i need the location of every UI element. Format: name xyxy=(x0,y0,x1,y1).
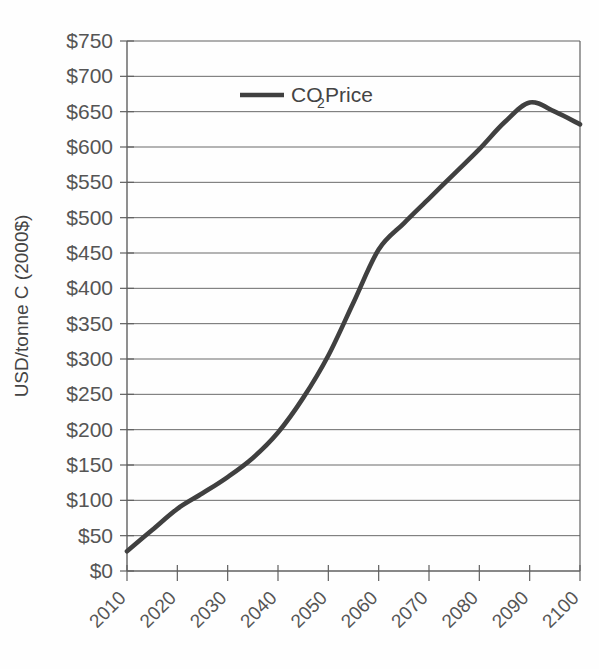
y-tick-label: $100 xyxy=(66,488,113,511)
y-tick-label: $550 xyxy=(66,170,113,193)
y-tick-label: $300 xyxy=(66,347,113,370)
co2-price-line-chart: $0$50$100$150$200$250$300$350$400$450$50… xyxy=(0,0,599,669)
y-axis-title-text: USD/tonne C (2000$) xyxy=(11,215,32,398)
y-tick-label: $200 xyxy=(66,418,113,441)
legend-label-tail: Price xyxy=(325,83,373,106)
y-tick-label: $400 xyxy=(66,276,113,299)
y-tick-label: $450 xyxy=(66,241,113,264)
y-tick-label: $250 xyxy=(66,382,113,405)
y-tick-label: $50 xyxy=(78,524,113,547)
chart-container: $0$50$100$150$200$250$300$350$400$450$50… xyxy=(0,0,599,669)
y-tick-label: $0 xyxy=(90,559,113,582)
y-tick-label: $150 xyxy=(66,453,113,476)
y-tick-label: $650 xyxy=(66,100,113,123)
y-tick-label: $350 xyxy=(66,312,113,335)
legend-label-subscript: 2 xyxy=(317,95,325,111)
y-tick-label: $700 xyxy=(66,64,113,87)
y-tick-label: $500 xyxy=(66,206,113,229)
y-tick-label: $600 xyxy=(66,135,113,158)
y-axis-title: USD/tonne C (2000$) xyxy=(11,215,32,398)
y-tick-label: $750 xyxy=(66,29,113,52)
